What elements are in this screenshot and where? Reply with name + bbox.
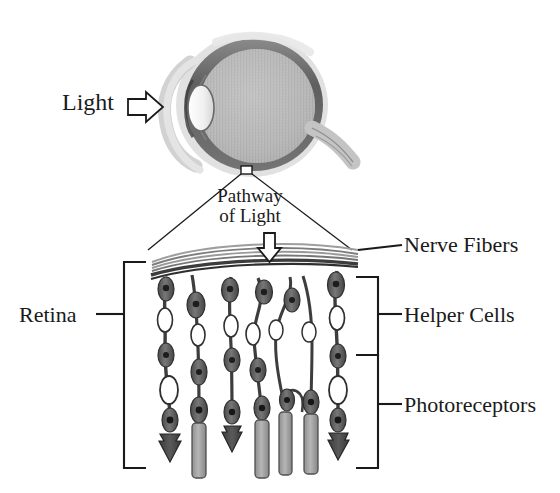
label-retina: Retina	[19, 303, 76, 326]
neuron-column	[302, 276, 319, 474]
label-nerve-fibers: Nerve Fibers	[404, 233, 518, 256]
label-helper-cells: Helper Cells	[404, 303, 515, 326]
eyeball-illustration	[164, 33, 353, 177]
nerve-fiber-layer	[151, 244, 358, 279]
label-light: Light	[62, 90, 114, 115]
bracket-helper-cells	[356, 277, 402, 355]
annotation-brackets	[96, 245, 402, 468]
neuron-column	[269, 277, 303, 475]
label-pathway-line1: Pathway	[205, 186, 295, 206]
neuron-column	[328, 271, 350, 460]
neuron-column	[158, 277, 182, 462]
bracket-photoreceptors	[356, 355, 402, 468]
label-pathway-line2: of Light	[205, 206, 295, 226]
neuron-column	[222, 277, 243, 452]
bracket-retina	[96, 262, 146, 468]
neuron-column	[246, 278, 273, 478]
eye-retina-diagram: Light Pathway of Light Nerve Fibers Help…	[0, 0, 560, 493]
arrow-right-outline-icon	[128, 92, 163, 122]
label-photoreceptors: Photoreceptors	[404, 393, 536, 416]
label-pathway-of-light: Pathway of Light	[205, 186, 295, 226]
leader-nerve-fibers	[358, 245, 402, 250]
neuron-column	[187, 275, 208, 478]
retina-cell-columns	[158, 271, 350, 478]
arrow-down-outline-icon	[258, 233, 281, 262]
callout-square-icon	[241, 166, 252, 174]
